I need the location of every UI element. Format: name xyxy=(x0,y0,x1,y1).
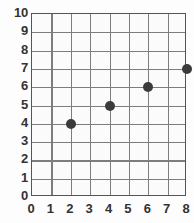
x-axis-tick-label: 7 xyxy=(157,202,177,215)
gridline-horizontal xyxy=(32,32,185,33)
gridline-horizontal xyxy=(32,87,185,88)
y-axis-tick-label: 6 xyxy=(2,79,28,92)
gridline-vertical xyxy=(148,14,149,195)
y-axis-tick-label: 8 xyxy=(2,43,28,56)
gridline-vertical xyxy=(129,14,130,195)
x-axis-tick-label: 0 xyxy=(21,202,41,215)
plot-area xyxy=(31,13,186,196)
y-axis-tick-label: 7 xyxy=(2,61,28,74)
x-axis-tick-label: 5 xyxy=(118,202,138,215)
y-axis-tick-label: 2 xyxy=(2,152,28,165)
gridline-horizontal xyxy=(32,124,185,125)
data-point xyxy=(105,101,115,111)
gridline-horizontal xyxy=(32,51,185,52)
gridline-vertical xyxy=(90,14,91,195)
gridline-horizontal xyxy=(32,142,185,143)
gridline-vertical xyxy=(71,14,72,195)
y-axis-tick-label: 5 xyxy=(2,98,28,111)
scatter-chart: 012345678910 012345678 xyxy=(0,0,194,223)
data-point xyxy=(66,119,76,129)
y-axis-tick-label: 0 xyxy=(2,189,28,202)
x-axis-tick-labels: 012345678 xyxy=(31,202,186,218)
data-point xyxy=(143,82,153,92)
y-axis-tick-label: 4 xyxy=(2,116,28,129)
x-axis-tick-label: 3 xyxy=(79,202,99,215)
gridline-vertical xyxy=(168,14,169,195)
gridline-horizontal xyxy=(32,69,185,70)
y-axis-tick-label: 10 xyxy=(2,6,28,19)
y-axis-tick-label: 3 xyxy=(2,134,28,147)
x-axis-tick-label: 2 xyxy=(60,202,80,215)
gridline-horizontal xyxy=(32,179,185,180)
y-axis-tick-label: 1 xyxy=(2,171,28,184)
x-axis-tick-label: 1 xyxy=(40,202,60,215)
gridline-horizontal xyxy=(32,160,185,161)
x-axis-tick-label: 8 xyxy=(176,202,194,215)
y-axis-tick-labels: 012345678910 xyxy=(0,13,28,196)
x-axis-tick-label: 6 xyxy=(137,202,157,215)
y-axis-tick-label: 9 xyxy=(2,24,28,37)
x-axis-tick-label: 4 xyxy=(99,202,119,215)
gridline-vertical xyxy=(51,14,52,195)
data-point xyxy=(182,64,192,74)
